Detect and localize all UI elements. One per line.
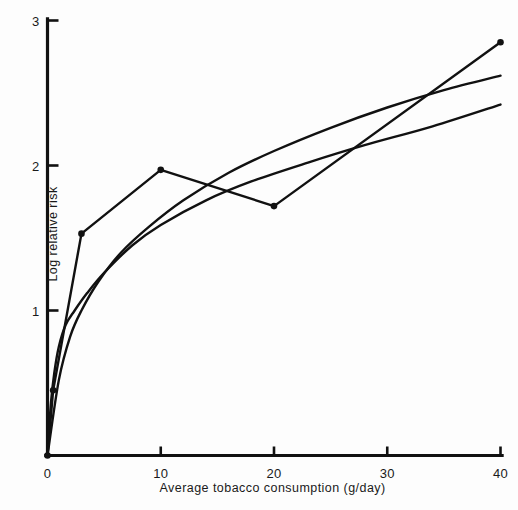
y-tick-label-1: 1 [22,303,40,318]
x-tick-label-30: 30 [380,466,395,481]
x-axis-label: Average tobacco consumption (g/day) [160,481,386,495]
x-tick-label-0: 0 [44,466,51,481]
x-tick-label-20: 20 [267,466,282,481]
data-point-observed-points-5 [497,39,504,46]
data-point-observed-points-1 [50,387,57,394]
data-point-observed-points-2 [78,230,85,237]
y-tick-label-3: 3 [22,13,40,28]
data-point-observed-points-0 [44,452,51,459]
chart-plot-area [0,0,518,510]
axes-group [46,19,502,456]
x-tick-label-40: 40 [493,466,508,481]
curves-group [48,42,501,455]
markers-group [44,39,504,459]
curve-quadratic-fit [48,76,501,456]
curve-logarithmic-fit [48,105,501,456]
chart-figure: 010203040123 Average tobacco consumption… [0,0,518,510]
y-axis-label: Log relative risk [46,186,60,281]
data-point-observed-points-3 [157,167,164,174]
x-tick-label-10: 10 [153,466,168,481]
ticks-group [48,21,501,456]
data-point-observed-points-4 [271,203,278,210]
curve-observed-points [48,42,501,455]
y-tick-label-2: 2 [22,158,40,173]
